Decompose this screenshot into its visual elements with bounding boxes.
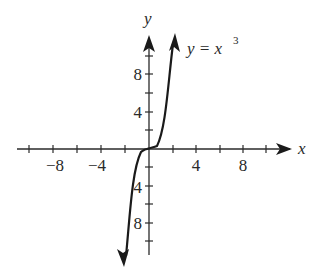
x-tick-label-4: 4 xyxy=(192,156,201,175)
curve-bottom-arrow-icon xyxy=(117,249,129,267)
y-axis-label: y xyxy=(142,9,152,28)
x-tick-label-8: 8 xyxy=(239,156,248,175)
x-tick-label-neg8: −8 xyxy=(46,156,64,175)
y-axis: 8 4 4 8 y xyxy=(134,9,156,255)
x-axis: −8 −4 4 8 x xyxy=(17,139,306,175)
equation-exponent: 3 xyxy=(233,34,239,46)
cubic-function-graph: −8 −4 4 8 x 8 4 4 8 y y = xyxy=(0,0,315,271)
y-tick-label-neg4: 4 xyxy=(134,178,143,197)
y-tick-label-4: 4 xyxy=(134,103,143,122)
y-tick-label-neg8: 8 xyxy=(134,214,143,233)
x-axis-label: x xyxy=(297,139,306,158)
equation-label: y = x 3 xyxy=(185,34,239,58)
y-tick-label-8: 8 xyxy=(134,65,143,84)
curve-top-arrow-icon xyxy=(169,33,180,52)
equation-text: y = x xyxy=(185,39,223,58)
x-tick-label-neg4: −4 xyxy=(88,156,107,175)
